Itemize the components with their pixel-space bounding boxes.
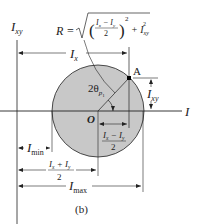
half-sum-denominator: 2 xyxy=(57,172,62,182)
paren-right: ) xyxy=(119,21,125,40)
origin-label: O xyxy=(87,113,95,125)
mohr-circle-diagram: Ixy I R = ( Ix − Iy 2 ) 2 + Ixy 2 Ix A I… xyxy=(0,0,206,224)
half-sum-numerator: Ix + Iy xyxy=(48,159,71,170)
formula-ixy-exponent: 2 xyxy=(143,21,146,27)
formula-denominator: 2 xyxy=(104,29,108,38)
paren-left: ( xyxy=(89,21,95,40)
i-axis-label: I xyxy=(184,104,190,119)
figure-caption: (b) xyxy=(75,203,88,216)
half-diff-numerator: Ix − Iy xyxy=(102,130,125,141)
formula-numerator: Ix − Iy xyxy=(95,18,116,28)
point-a-marker xyxy=(127,76,131,80)
half-diff-denominator: 2 xyxy=(111,142,116,152)
point-a-label: A xyxy=(133,65,141,77)
formula-lhs: R = xyxy=(55,24,74,38)
formula-exponent: 2 xyxy=(125,15,129,23)
formula-ixy-term: + Ixy xyxy=(131,24,149,36)
ixy-axis-label: Ixy xyxy=(10,19,23,36)
